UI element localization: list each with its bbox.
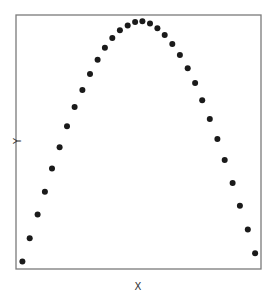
data-point [169,41,175,47]
data-point [64,123,70,129]
data-point [132,19,138,25]
data-point [154,25,160,31]
x-axis-label: X [135,281,142,292]
data-point [102,45,108,51]
data-point [49,165,55,171]
data-point [87,71,93,77]
data-point [207,116,213,122]
data-point [42,189,48,195]
data-point [79,87,85,93]
plot-frame [16,15,261,269]
data-point [245,226,251,232]
data-point [162,32,168,38]
data-point [72,104,78,110]
y-axis-label: Y [12,137,23,145]
data-point [252,250,258,256]
data-point [230,180,236,186]
data-point [147,20,153,26]
data-point [222,157,228,163]
data-point [125,22,131,28]
data-point [109,35,115,41]
data-point [185,65,191,71]
data-point [199,97,205,103]
data-point [139,18,145,24]
data-point [192,80,198,86]
data-point [27,235,33,241]
data-point [57,144,63,150]
scatter-chart: X Y [0,0,274,299]
data-point [117,27,123,33]
data-points [19,18,258,264]
data-point [237,203,243,209]
data-point [214,136,220,142]
data-point [95,57,101,63]
data-point [177,52,183,58]
data-point [19,259,25,265]
data-point [35,212,41,218]
